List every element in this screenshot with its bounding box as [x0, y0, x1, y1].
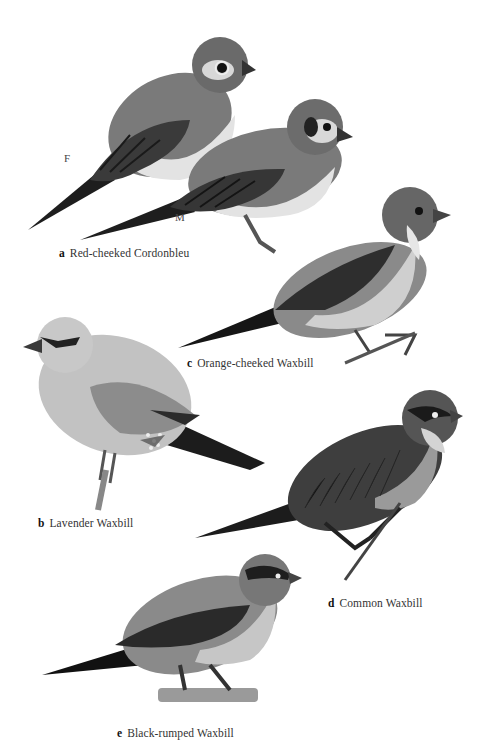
bird-black-rumped-waxbill	[40, 550, 305, 720]
species-letter: b	[38, 517, 45, 529]
species-letter: a	[59, 247, 65, 259]
species-label-a: aRed-cheeked Cordonbleu	[59, 247, 189, 259]
species-name: Red-cheeked Cordonbleu	[70, 247, 189, 259]
species-label-d: dCommon Waxbill	[328, 597, 423, 609]
species-label-b: bLavender Waxbill	[38, 517, 133, 529]
species-name: Common Waxbill	[340, 597, 423, 609]
species-letter: d	[328, 597, 335, 609]
illustration-plate: F M aRed-cheeked Cordonbleu cOrange-chee…	[0, 0, 483, 746]
species-name: Black-rumped Waxbill	[127, 727, 234, 739]
female-label: F	[64, 152, 70, 164]
species-name: Lavender Waxbill	[50, 517, 134, 529]
species-letter: e	[117, 727, 122, 739]
species-label-e: eBlack-rumped Waxbill	[117, 727, 234, 739]
